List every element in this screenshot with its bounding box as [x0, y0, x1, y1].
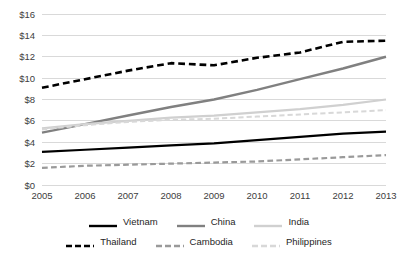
- series-line-cambodia: [42, 155, 386, 168]
- legend-swatch-icon: [253, 217, 283, 227]
- legend-label: China: [211, 216, 236, 227]
- legend-label: India: [288, 216, 309, 227]
- series-line-thailand: [42, 41, 386, 88]
- y-axis-tick-label: $0: [24, 180, 35, 191]
- legend-swatch-icon: [176, 217, 206, 227]
- x-axis-tick-label: 2005: [31, 190, 52, 201]
- y-axis-tick-label: $2: [24, 158, 35, 169]
- y-axis-tick-label: $8: [24, 94, 35, 105]
- y-axis-tick-label: $10: [19, 73, 35, 84]
- legend-item-cambodia[interactable]: Cambodia: [155, 234, 233, 250]
- legend-swatch-icon: [251, 237, 281, 247]
- legend-item-india[interactable]: India: [253, 214, 309, 230]
- series-line-philippines: [42, 110, 386, 129]
- legend-label: Cambodia: [190, 236, 233, 247]
- x-axis-tick-label: 2008: [160, 190, 181, 201]
- legend-swatch-icon: [88, 217, 118, 227]
- legend-label: Thailand: [100, 236, 136, 247]
- y-axis-tick-label: $4: [24, 137, 35, 148]
- y-axis-tick-label: $14: [19, 30, 35, 41]
- y-axis-tick-label: $6: [24, 115, 35, 126]
- legend-item-china[interactable]: China: [176, 214, 236, 230]
- legend-row: VietnamChinaIndia: [88, 214, 309, 230]
- x-axis-tick-label: 2006: [74, 190, 95, 201]
- x-axis-tick-label: 2012: [332, 190, 353, 201]
- legend-item-philippines[interactable]: Philippines: [251, 234, 332, 250]
- legend-swatch-icon: [65, 237, 95, 247]
- x-axis-tick-label: 2009: [203, 190, 224, 201]
- chart-canvas: $0$2$4$6$8$10$12$14$16200520062007200820…: [0, 0, 397, 205]
- line-chart: $0$2$4$6$8$10$12$14$16200520062007200820…: [0, 0, 397, 256]
- x-axis-tick-label: 2010: [246, 190, 267, 201]
- legend-label: Vietnam: [123, 216, 158, 227]
- y-axis-tick-label: $16: [19, 9, 35, 20]
- legend-swatch-icon: [155, 237, 185, 247]
- y-axis-tick-label: $12: [19, 51, 35, 62]
- legend-item-thailand[interactable]: Thailand: [65, 234, 136, 250]
- legend-label: Philippines: [286, 236, 332, 247]
- x-axis-tick-label: 2007: [117, 190, 138, 201]
- plot-area: $0$2$4$6$8$10$12$14$16200520062007200820…: [0, 0, 397, 205]
- legend-item-vietnam[interactable]: Vietnam: [88, 214, 158, 230]
- series-line-vietnam: [42, 132, 386, 152]
- legend-row: ThailandCambodiaPhilippines: [65, 234, 332, 250]
- x-axis-tick-label: 2013: [375, 190, 396, 201]
- x-axis-tick-label: 2011: [290, 190, 310, 201]
- chart-legend: VietnamChinaIndiaThailandCambodiaPhilipp…: [0, 207, 397, 256]
